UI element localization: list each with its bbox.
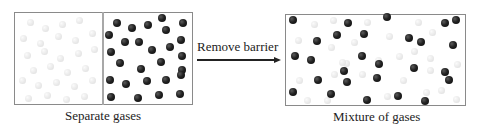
gas-b-molecule-icon xyxy=(417,38,425,46)
gas-b-molecule-icon xyxy=(449,41,457,49)
gas-b-molecule-icon xyxy=(441,68,449,76)
gas-b-molecule-icon xyxy=(441,19,449,27)
gas-b-molecule-icon xyxy=(313,37,321,45)
gas-b-molecule-icon xyxy=(148,46,156,54)
gas-b-molecule-icon xyxy=(121,38,129,46)
gas-a-molecule-icon xyxy=(25,95,32,102)
gas-a-molecule-icon xyxy=(328,44,335,51)
gas-a-molecule-icon xyxy=(453,96,460,103)
right-arrow-icon xyxy=(197,59,275,61)
gas-b-molecule-icon xyxy=(162,26,170,34)
gas-a-molecule-icon xyxy=(20,35,27,42)
mixture-of-gases-caption: Mixture of gases xyxy=(333,109,420,125)
gas-a-molecule-icon xyxy=(304,97,311,104)
gas-b-molecule-icon xyxy=(158,14,166,22)
arrowhead-icon xyxy=(274,57,281,63)
gas-a-molecule-icon xyxy=(63,96,70,103)
gas-a-molecule-icon xyxy=(295,37,302,44)
gas-b-molecule-icon xyxy=(107,48,115,56)
gas-b-molecule-icon xyxy=(106,76,114,84)
gas-b-molecule-icon xyxy=(166,43,174,51)
gas-b-molecule-icon xyxy=(155,91,163,99)
gas-b-molecule-icon xyxy=(134,94,142,102)
gas-a-molecule-icon xyxy=(55,33,62,40)
gas-a-molecule-icon xyxy=(351,39,358,46)
gas-a-molecule-icon xyxy=(30,67,37,74)
remove-barrier-label: Remove barrier xyxy=(197,39,278,55)
gas-b-molecule-icon xyxy=(128,24,136,32)
gas-b-molecule-icon xyxy=(289,88,297,96)
gas-b-molecule-icon xyxy=(344,19,352,27)
gas-b-molecule-icon xyxy=(410,64,418,72)
gas-a-molecule-icon xyxy=(53,79,60,86)
gas-a-molecule-icon xyxy=(411,48,418,55)
gas-b-molecule-icon xyxy=(177,36,185,44)
gas-a-molecule-icon xyxy=(82,65,89,72)
gas-a-molecule-icon xyxy=(35,82,42,89)
gas-a-molecule-icon xyxy=(364,19,371,26)
gas-b-molecule-icon xyxy=(405,34,413,42)
gas-b-molecule-icon xyxy=(122,80,130,88)
gas-b-molecule-icon xyxy=(137,65,145,73)
gas-a-molecule-icon xyxy=(384,93,391,100)
gas-a-molecule-icon xyxy=(42,25,49,32)
barrier-divider xyxy=(102,12,104,105)
gas-b-molecule-icon xyxy=(162,76,170,84)
gas-b-molecule-icon xyxy=(307,56,315,64)
gas-b-molecule-icon xyxy=(289,16,297,24)
gas-b-molecule-icon xyxy=(360,30,368,38)
gas-b-molecule-icon xyxy=(375,60,383,68)
gas-b-molecule-icon xyxy=(144,21,152,29)
gas-a-molecule-icon xyxy=(330,17,337,24)
gas-b-molecule-icon xyxy=(373,74,381,82)
gas-b-molecule-icon xyxy=(143,77,151,85)
gas-b-molecule-icon xyxy=(340,67,348,75)
gas-a-molecule-icon xyxy=(429,29,436,36)
gas-a-molecule-icon xyxy=(415,19,422,26)
gas-b-molecule-icon xyxy=(116,59,124,67)
gas-a-molecule-icon xyxy=(75,50,82,57)
gas-b-molecule-icon xyxy=(178,52,186,60)
gas-a-molecule-icon xyxy=(423,89,430,96)
gas-a-molecule-icon xyxy=(27,19,34,26)
gas-a-molecule-icon xyxy=(438,87,445,94)
gas-a-molecule-icon xyxy=(57,55,64,62)
gas-a-molecule-icon xyxy=(64,69,71,76)
gas-b-molecule-icon xyxy=(343,78,351,86)
gas-b-molecule-icon xyxy=(291,52,299,60)
gas-b-molecule-icon xyxy=(176,90,184,98)
gas-a-molecule-icon xyxy=(19,77,26,84)
gas-a-molecule-icon xyxy=(296,77,303,84)
gas-a-molecule-icon xyxy=(76,17,83,24)
gas-a-molecule-icon xyxy=(91,46,98,53)
gas-a-molecule-icon xyxy=(59,21,66,28)
gas-b-molecule-icon xyxy=(107,93,115,101)
gas-a-molecule-icon xyxy=(41,48,48,55)
gas-a-molecule-icon xyxy=(331,71,338,78)
gas-a-molecule-icon xyxy=(89,77,96,84)
gas-b-molecule-icon xyxy=(177,71,185,79)
gas-b-molecule-icon xyxy=(135,38,143,46)
gas-b-molecule-icon xyxy=(327,90,335,98)
gas-b-molecule-icon xyxy=(358,52,366,60)
gas-b-molecule-icon xyxy=(421,97,429,105)
separate-gases-caption: Separate gases xyxy=(65,108,141,124)
gas-b-molecule-icon xyxy=(445,76,453,84)
gas-b-molecule-icon xyxy=(363,96,371,104)
gas-b-molecule-icon xyxy=(452,16,460,24)
gas-a-molecule-icon xyxy=(427,67,434,74)
gas-b-molecule-icon xyxy=(333,31,341,39)
gas-b-molecule-icon xyxy=(157,58,165,66)
gas-a-molecule-icon xyxy=(359,71,366,78)
gas-a-molecule-icon xyxy=(400,77,407,84)
gas-a-molecule-icon xyxy=(454,61,461,68)
gas-b-molecule-icon xyxy=(314,76,322,84)
gas-b-molecule-icon xyxy=(383,13,391,21)
gas-b-molecule-icon xyxy=(394,92,402,100)
gas-a-molecule-icon xyxy=(24,52,31,59)
gas-a-molecule-icon xyxy=(427,55,434,62)
gas-a-molecule-icon xyxy=(71,83,78,90)
gas-b-molecule-icon xyxy=(113,19,121,27)
gas-b-molecule-icon xyxy=(179,19,187,27)
gas-a-molecule-icon xyxy=(72,37,79,44)
